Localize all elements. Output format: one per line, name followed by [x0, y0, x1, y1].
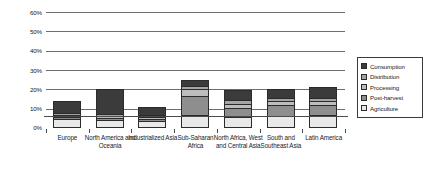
bar-segment-agriculture: [310, 116, 336, 127]
bar-segment-agriculture: [97, 121, 123, 127]
x-axis-line: [44, 116, 348, 117]
legend-swatch-icon: [361, 74, 367, 80]
legend-swatch-icon: [361, 105, 367, 111]
y-axis-tick-label: 60%: [12, 9, 42, 16]
y-axis-tick-label: 10%: [12, 105, 42, 112]
stacked-bar[interactable]: [267, 89, 295, 128]
legend-swatch-icon: [361, 95, 367, 101]
bar-segment-consumption: [54, 102, 80, 114]
legend-item[interactable]: Post-harvest: [361, 93, 419, 103]
stacked-bar[interactable]: [96, 89, 124, 128]
bar-segment-post-harvest: [182, 97, 208, 116]
x-axis-tick: [89, 129, 90, 133]
y-axis-tick-label: 30%: [12, 67, 42, 74]
legend-swatch-icon: [361, 63, 367, 69]
stacked-bar-chart: 60% 50% 40% 30% 20% 10% 0% EuropeNorth A…: [0, 0, 427, 170]
legend-label: Consumption: [370, 63, 405, 70]
bar-slot: [89, 12, 132, 128]
legend-label: Distribution: [370, 73, 399, 80]
stacked-bar[interactable]: [309, 87, 337, 128]
bar-segment-consumption: [310, 88, 336, 98]
bar-segment-agriculture: [139, 122, 165, 127]
bar-segment-consumption: [225, 91, 251, 101]
y-axis-tick-label: 0%: [12, 124, 42, 131]
bar-segment-agriculture: [225, 118, 251, 127]
bar-segment-agriculture: [54, 120, 80, 127]
bar-slot: [46, 12, 89, 128]
legend-label: Agriculture: [370, 105, 398, 112]
legend: ConsumptionDistributionProcessingPost-ha…: [357, 57, 423, 118]
y-axis-tick-label: 50%: [12, 28, 42, 35]
legend-item[interactable]: Distribution: [361, 72, 419, 82]
stacked-bar[interactable]: [181, 80, 209, 128]
stacked-bar[interactable]: [53, 101, 81, 128]
stacked-bar[interactable]: [224, 90, 252, 128]
bar-slot: [131, 12, 174, 128]
x-axis-label: Latin America: [298, 134, 350, 142]
legend-label: Post-harvest: [370, 94, 403, 101]
legend-label: Processing: [370, 84, 399, 91]
x-axis-tick: [345, 129, 346, 133]
bar-group: [46, 12, 345, 128]
stacked-bar[interactable]: [138, 107, 166, 128]
legend-swatch-icon: [361, 84, 367, 90]
bar-slot: [217, 12, 260, 128]
bar-slot: [260, 12, 303, 128]
bar-segment-agriculture: [268, 117, 294, 127]
legend-item[interactable]: Processing: [361, 82, 419, 92]
bar-slot: [174, 12, 217, 128]
y-axis-tick-label: 20%: [12, 86, 42, 93]
x-axis-tick: [302, 129, 303, 133]
x-axis-tick: [217, 129, 218, 133]
bar-segment-processing: [182, 90, 208, 97]
bar-segment-post-harvest: [310, 106, 336, 116]
x-axis-tick: [131, 129, 132, 133]
legend-item[interactable]: Consumption: [361, 61, 419, 71]
bar-segment-consumption: [268, 90, 294, 98]
legend-item[interactable]: Agriculture: [361, 103, 419, 113]
bar-segment-consumption: [97, 90, 123, 115]
x-axis-tick: [46, 129, 47, 133]
y-axis-tick-label: 40%: [12, 47, 42, 54]
x-axis-tick: [174, 129, 175, 133]
bar-segment-agriculture: [182, 116, 208, 127]
x-axis-tick: [260, 129, 261, 133]
bar-slot: [302, 12, 345, 128]
